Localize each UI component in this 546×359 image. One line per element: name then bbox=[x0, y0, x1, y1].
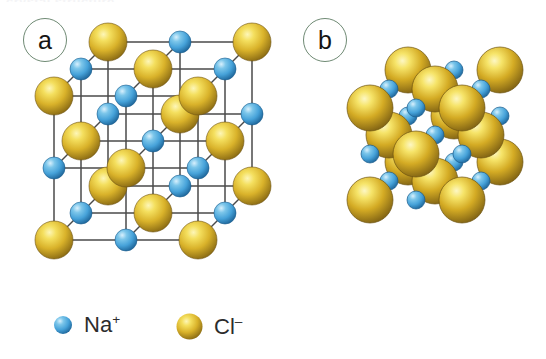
cl-ion-sphere bbox=[134, 50, 172, 88]
na-ion-sphere bbox=[142, 130, 164, 152]
legend-cl-symbol: Cl bbox=[214, 314, 235, 339]
cl-ion-sphere bbox=[179, 221, 217, 259]
cl-ion-sphere bbox=[62, 122, 100, 160]
cl-ion-sphere bbox=[233, 167, 271, 205]
packed-ion-spheres bbox=[347, 47, 523, 223]
na-ion-sphere bbox=[169, 175, 191, 197]
cl-ion-sphere bbox=[233, 23, 271, 61]
legend: Na+ Cl– bbox=[48, 313, 348, 347]
na-ion-sphere bbox=[214, 58, 236, 80]
na-sphere-icon bbox=[53, 315, 73, 335]
legend-na-symbol: Na bbox=[84, 312, 112, 337]
cl-ion-sphere bbox=[439, 177, 485, 223]
panel-label-b: b bbox=[303, 18, 347, 62]
lattice-ball-stick-svg bbox=[18, 52, 274, 292]
nacl-structure-figure: crystal structure a b bbox=[0, 0, 546, 359]
cut-off-heading: crystal structure bbox=[6, 0, 115, 2]
na-ion-sphere bbox=[187, 157, 209, 179]
na-ion-sphere bbox=[241, 103, 263, 125]
cl-ion-sphere bbox=[206, 122, 244, 160]
cl-ion-sphere bbox=[393, 131, 439, 177]
na-ion-sphere bbox=[214, 202, 236, 224]
na-ion-sphere bbox=[361, 145, 379, 163]
na-ion-sphere bbox=[407, 191, 425, 209]
cl-ion-sphere bbox=[439, 85, 485, 131]
panel-label-b-text: b bbox=[318, 28, 332, 53]
cl-ion-sphere bbox=[347, 85, 393, 131]
legend-na-charge: + bbox=[112, 312, 120, 327]
panel-a-ball-and-stick bbox=[18, 52, 274, 292]
legend-label-cl: Cl– bbox=[214, 315, 242, 338]
cl-ion-sphere bbox=[179, 77, 217, 115]
legend-item-na: Na+ bbox=[53, 313, 120, 336]
legend-label-na: Na+ bbox=[84, 313, 120, 336]
cl-ion-sphere bbox=[107, 149, 145, 187]
na-ion-sphere bbox=[115, 85, 137, 107]
cl-ion-sphere bbox=[35, 221, 73, 259]
na-ion-sphere bbox=[70, 202, 92, 224]
panel-label-a-text: a bbox=[38, 28, 52, 53]
na-ion-sphere bbox=[115, 229, 137, 251]
cl-ion-sphere bbox=[347, 177, 393, 223]
cl-ion-sphere bbox=[89, 23, 127, 61]
na-ion-sphere bbox=[453, 145, 471, 163]
cl-ion-sphere bbox=[134, 194, 172, 232]
lattice-space-fill-svg bbox=[330, 72, 540, 257]
cl-sphere-icon bbox=[176, 313, 203, 340]
legend-cl-charge: – bbox=[235, 314, 243, 329]
na-ion-sphere bbox=[70, 58, 92, 80]
na-ion-sphere bbox=[43, 157, 65, 179]
na-ion-sphere bbox=[407, 99, 425, 117]
na-ion-sphere bbox=[97, 103, 119, 125]
legend-item-cl: Cl– bbox=[176, 313, 242, 340]
na-ion-sphere bbox=[169, 31, 191, 53]
panel-b-space-filling bbox=[330, 72, 540, 257]
cl-ion-sphere bbox=[35, 77, 73, 115]
